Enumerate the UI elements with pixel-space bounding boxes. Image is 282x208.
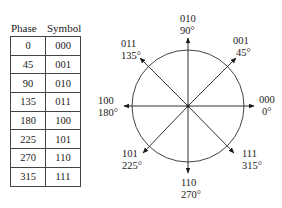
vector-225 bbox=[143, 106, 188, 153]
vector-45 bbox=[188, 58, 236, 106]
label-111: 111 bbox=[242, 148, 257, 159]
label-45: 45° bbox=[236, 47, 251, 58]
label-270: 270° bbox=[181, 189, 201, 200]
label-225: 225° bbox=[122, 160, 142, 171]
label-001: 001 bbox=[233, 35, 249, 46]
label-180: 180° bbox=[98, 107, 118, 118]
label-010: 010 bbox=[180, 13, 196, 24]
vector-135 bbox=[140, 58, 188, 106]
label-110: 110 bbox=[181, 177, 196, 188]
label-0: 0° bbox=[262, 106, 271, 117]
label-90: 90° bbox=[180, 25, 195, 36]
label-100: 100 bbox=[98, 95, 114, 106]
label-011: 011 bbox=[121, 38, 136, 49]
label-135: 135° bbox=[121, 50, 141, 61]
label-101: 101 bbox=[122, 148, 138, 159]
phase-constellation-diagram: 010 90° 001 45° 011 135° 100 180° 000 0°… bbox=[0, 0, 282, 208]
vector-315 bbox=[188, 106, 234, 153]
label-315: 315° bbox=[242, 160, 262, 171]
origin-dot bbox=[187, 105, 190, 108]
label-000: 000 bbox=[259, 94, 275, 105]
